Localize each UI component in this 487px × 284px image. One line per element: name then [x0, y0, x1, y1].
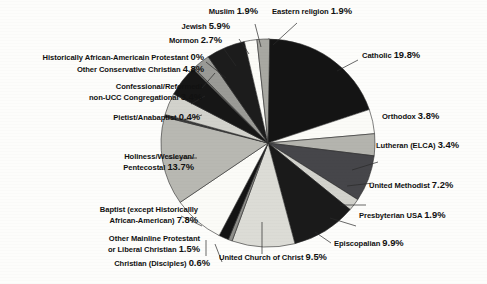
- label-confessional-reformed: Confessional/Reformed/ non-UCC Congregat…: [36, 82, 202, 102]
- label-jewish-text: Jewish: [182, 22, 207, 31]
- label-holiness-line2: Pentecostal: [123, 163, 165, 172]
- label-confessional-line1: Confessional/Reformed/: [36, 82, 202, 92]
- label-ucc-text: United Church of Christ: [219, 253, 304, 262]
- label-other-mainline-protestant: Other Mainline Protestant or Liberal Chr…: [82, 234, 200, 254]
- label-other-conservative-christian: Other Conservative Christian 4.8%: [14, 64, 204, 75]
- label-catholic: Catholic 19.8%: [362, 50, 420, 61]
- label-orthodox: Orthodox 3.8%: [382, 111, 439, 122]
- label-baptist-line2: African-American): [110, 216, 175, 225]
- label-other-mainline-pct: 1.5%: [179, 243, 200, 254]
- label-pietist-pct: 0.4%: [179, 111, 200, 122]
- label-holiness-wesleyan-pentecostal: Holiness/Wesleyan/ Pentecostal 13.7%: [52, 152, 194, 172]
- label-other-conservative-pct: 4.8%: [183, 63, 204, 74]
- label-lutheran-elca: Lutheran (ELCA) 3.4%: [376, 140, 459, 151]
- label-episcopalian: Episcopalian 9.9%: [334, 238, 404, 249]
- label-eastern-religion-pct: 1.9%: [331, 5, 352, 16]
- label-catholic-pct: 19.8%: [394, 49, 421, 60]
- label-disciples-pct: 0.6%: [189, 257, 210, 268]
- label-pietist-anabaptist: Pietist/Anabaptist 0.4%: [42, 112, 200, 123]
- label-orthodox-text: Orthodox: [382, 112, 416, 121]
- label-jewish: Jewish 5.9%: [130, 21, 230, 32]
- label-presbyterian-text: Presbyterian USA: [359, 211, 422, 220]
- leader-line-episcopalian: [315, 232, 331, 243]
- label-pietist-text: Pietist/Anabaptist: [113, 113, 176, 122]
- label-christian-disciples: Christian (Disciples) 0.6%: [88, 258, 210, 269]
- label-historically-aa-text: Historically African-Americain Protestan…: [43, 53, 189, 62]
- label-historically-african-american-protestant: Historically African-Americain Protestan…: [8, 52, 204, 63]
- label-baptist-pct: 7.8%: [177, 214, 198, 225]
- leader-line-catholic: [337, 60, 358, 71]
- label-united-methodist: United Methodist 7.2%: [369, 180, 453, 191]
- label-presbyterian-pct: 1.9%: [424, 209, 445, 220]
- label-ucc-pct: 9.5%: [306, 251, 327, 262]
- label-muslim: Muslim 1.9%: [168, 6, 258, 17]
- label-holiness-pct: 13.7%: [167, 161, 194, 172]
- label-confessional-line2: non-UCC Congregational: [89, 93, 179, 102]
- label-historically-aa-pct: 0%: [190, 51, 204, 62]
- label-jewish-pct: 5.9%: [209, 20, 230, 31]
- label-mormon: Mormon 2.7%: [118, 35, 222, 46]
- label-muslim-pct: 1.9%: [237, 5, 258, 16]
- label-mormon-text: Mormon: [169, 36, 199, 45]
- label-united-methodist-pct: 7.2%: [432, 179, 453, 190]
- label-lutheran-text: Lutheran (ELCA): [376, 141, 436, 150]
- label-catholic-text: Catholic: [362, 51, 392, 60]
- label-episcopalian-pct: 9.9%: [382, 237, 403, 248]
- label-disciples-text: Christian (Disciples): [114, 259, 186, 268]
- label-presbyterian-usa: Presbyterian USA 1.9%: [359, 210, 446, 221]
- label-mormon-pct: 2.7%: [201, 34, 222, 45]
- label-united-church-of-christ: United Church of Christ 9.5%: [219, 252, 327, 263]
- pie-chart-figure: Muslim 1.9% Eastern religion 1.9% Jewish…: [0, 0, 487, 284]
- label-baptist: Baptist (except Historicallly African-Am…: [62, 205, 198, 225]
- label-united-methodist-text: United Methodist: [369, 181, 430, 190]
- label-other-mainline-line2: or Liberal Christian: [108, 245, 177, 254]
- label-muslim-text: Muslim: [209, 7, 235, 16]
- label-eastern-religion: Eastern religion 1.9%: [272, 6, 352, 17]
- label-lutheran-pct: 3.4%: [438, 139, 459, 150]
- label-orthodox-pct: 3.8%: [418, 110, 439, 121]
- label-other-conservative-text: Other Conservative Christian: [77, 65, 181, 74]
- label-confessional-pct: 3.4%: [181, 91, 202, 102]
- label-episcopalian-text: Episcopalian: [334, 239, 380, 248]
- label-eastern-religion-text: Eastern religion: [272, 7, 329, 16]
